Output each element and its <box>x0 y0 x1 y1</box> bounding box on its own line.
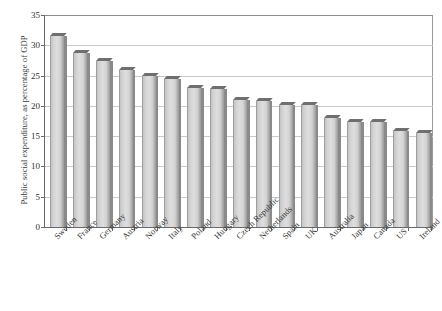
bar-side-face <box>224 89 227 227</box>
bar <box>187 85 201 227</box>
bar-side-face <box>361 122 364 227</box>
bar-side-face <box>156 76 159 227</box>
bar-top-face <box>210 86 227 89</box>
bar-side-face <box>133 70 136 227</box>
bar <box>164 76 178 227</box>
bar-top-face <box>119 67 136 70</box>
y-tick-label: 15 <box>31 131 40 141</box>
bar-series <box>45 15 433 227</box>
bar-top-face <box>233 97 250 100</box>
bar-front-face <box>301 105 315 227</box>
bar-front-face <box>324 118 338 227</box>
bar-top-face <box>416 130 433 133</box>
bar <box>119 67 133 227</box>
y-axis-title: Public social expenditure, as percentage… <box>19 0 29 240</box>
y-tick-label: 5 <box>36 192 41 202</box>
bar <box>50 33 64 227</box>
bar-front-face <box>233 100 247 227</box>
bar-top-face <box>370 119 387 122</box>
bar-side-face <box>384 122 387 227</box>
bar-front-face <box>142 76 156 227</box>
bar <box>416 130 430 227</box>
bar-top-face <box>324 115 341 118</box>
bar-front-face <box>393 131 407 227</box>
bar <box>301 102 315 227</box>
bar <box>73 50 87 227</box>
y-tick-mark <box>41 227 45 228</box>
bar-top-face <box>96 58 113 61</box>
bar-front-face <box>164 79 178 227</box>
bar-top-face <box>279 102 296 105</box>
bar-side-face <box>179 79 182 227</box>
bar <box>324 115 338 227</box>
bar-top-face <box>347 119 364 122</box>
bar-front-face <box>96 61 110 227</box>
bar <box>142 73 156 227</box>
bar-top-face <box>142 73 159 76</box>
bar-top-face <box>73 50 90 53</box>
bar <box>233 97 247 227</box>
bar-side-face <box>110 61 113 227</box>
y-tick-label: 20 <box>31 101 40 111</box>
y-tick-label: 25 <box>31 71 40 81</box>
bar <box>210 86 224 227</box>
bar-top-face <box>256 98 273 101</box>
bar <box>96 58 110 227</box>
x-tick-mark <box>408 227 409 231</box>
x-tick-label: US <box>394 226 409 241</box>
bar-side-face <box>64 36 67 227</box>
bar-top-face <box>393 128 410 131</box>
bar-front-face <box>370 122 384 227</box>
bar-side-face <box>247 100 250 227</box>
y-tick-label: 0 <box>36 222 41 232</box>
bar-side-face <box>430 133 433 227</box>
plot-area: 05101520253035 SwedenFranceGermanyAustri… <box>45 15 433 227</box>
bar <box>370 119 384 227</box>
page-text-fragment <box>120 0 420 8</box>
bar-side-face <box>338 118 341 227</box>
bar-front-face <box>416 133 430 227</box>
bar-front-face <box>119 70 133 227</box>
bar-front-face <box>210 89 224 227</box>
y-tick-label: 10 <box>31 161 40 171</box>
bar-side-face <box>407 131 410 227</box>
bar-front-face <box>73 53 87 227</box>
bar-top-face <box>187 85 204 88</box>
bar-front-face <box>187 88 201 227</box>
bar-side-face <box>316 105 319 227</box>
bar-side-face <box>201 88 204 227</box>
bar-side-face <box>87 53 90 227</box>
y-tick-label: 30 <box>31 40 40 50</box>
bar-front-face <box>50 36 64 227</box>
bar <box>393 128 407 227</box>
y-tick-label: 35 <box>31 10 40 20</box>
